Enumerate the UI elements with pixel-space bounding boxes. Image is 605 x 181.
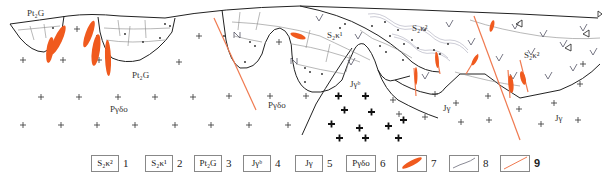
legend-symbol-pt2g: Pt₂G xyxy=(194,155,222,172)
legend-symbol-pydo: Pγδο xyxy=(346,155,376,172)
legend-symbol-s2k2: S₂κ² xyxy=(91,155,119,172)
label-jy-middle: Jγ xyxy=(443,103,451,113)
legend-item-contact-line: 8 xyxy=(449,153,489,173)
legend-symbol-jy: Jγ xyxy=(295,155,323,172)
label-s2k2-right: S₂κ² xyxy=(524,50,540,60)
legend-number: 8 xyxy=(483,157,489,169)
label-s2k1: S₂κ¹ xyxy=(327,30,343,40)
label-pydo-middle: Pγδο xyxy=(268,100,286,110)
legend-item-jyb: Jγᵇ 4 xyxy=(243,153,281,173)
vein-swatch-icon xyxy=(397,155,427,172)
vein-bodies xyxy=(45,20,528,94)
legend-item-s2k2: S₂κ² 1 xyxy=(91,153,129,173)
label-s2k2-middle: S₂κ² xyxy=(412,23,428,33)
legend-number: 9 xyxy=(534,157,540,169)
legend-number: 3 xyxy=(226,157,232,169)
label-pt2g-top: Pt₂G xyxy=(27,8,45,18)
legend-item-pydo: Pγδο 6 xyxy=(346,153,386,173)
geological-cross-section: Pt₂G Pt₂G S₂κ¹ S₂κ² S₂κ² Jγᵇ Pγδο Pγδο J… xyxy=(0,0,605,150)
legend-item-pt2g: Pt₂G 3 xyxy=(194,153,232,173)
legend-number: 5 xyxy=(327,157,333,169)
fault-line-swatch-icon xyxy=(500,155,530,172)
block-joints xyxy=(30,12,350,72)
legend-item-fault-line: 9 xyxy=(500,153,540,173)
label-jy-right: Jγ xyxy=(555,113,563,123)
legend-number: 4 xyxy=(275,157,281,169)
triangle-symbols xyxy=(516,11,602,51)
plus-symbols-light xyxy=(20,26,586,128)
legend-number: 6 xyxy=(380,157,386,169)
legend-item-jy: Jγ 5 xyxy=(295,153,333,173)
legend: S₂κ² 1 S₂κ¹ 2 Pt₂G 3 Jγᵇ 4 Jγ 5 Pγδο 6 7… xyxy=(0,150,605,181)
contact-line-swatch-icon xyxy=(449,155,479,172)
legend-number: 7 xyxy=(431,157,437,169)
label-pydo-left: Pγδο xyxy=(110,104,128,114)
label-pt2g-bottom: Pt₂G xyxy=(132,70,150,80)
legend-item-s2k1: S₂κ¹ 2 xyxy=(145,153,183,173)
legend-number: 1 xyxy=(123,157,129,169)
fault-lines xyxy=(214,16,528,140)
label-jyb: Jγᵇ xyxy=(350,79,360,89)
legend-symbol-s2k1: S₂κ¹ xyxy=(145,155,173,172)
legend-number: 2 xyxy=(177,157,183,169)
legend-symbol-jyb: Jγᵇ xyxy=(243,155,271,172)
legend-item-vein: 7 xyxy=(397,153,437,173)
